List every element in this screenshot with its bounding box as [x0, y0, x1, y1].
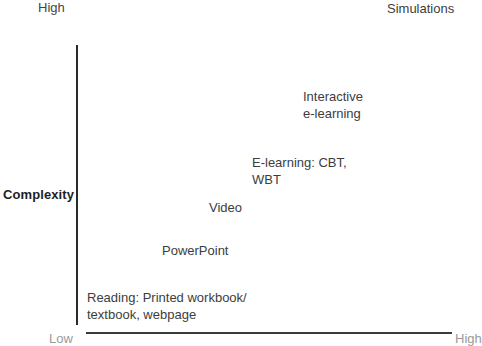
item-video: Video [209, 199, 242, 216]
x-axis-line [86, 332, 452, 334]
item-interactive-elearning: Interactive e-learning [303, 88, 363, 122]
item-reading-line1: Reading: Printed workbook/ [87, 289, 247, 306]
item-reading-line2: textbook, webpage [87, 306, 247, 323]
item-elearning-line1: E-learning: CBT, [252, 154, 347, 171]
x-axis-high-label: High [455, 331, 482, 346]
item-interactive-line2: e-learning [303, 105, 363, 122]
item-reading: Reading: Printed workbook/ textbook, web… [87, 289, 247, 323]
item-elearning-cbt-wbt: E-learning: CBT, WBT [252, 154, 347, 188]
y-axis-high-label: High [38, 0, 65, 15]
y-axis-line [76, 45, 78, 325]
y-axis-title: Complexity [3, 187, 74, 202]
item-interactive-line1: Interactive [303, 88, 363, 105]
item-simulations: Simulations [387, 0, 454, 17]
y-axis-low-label: Low [49, 331, 73, 346]
item-elearning-line2: WBT [252, 171, 347, 188]
item-powerpoint: PowerPoint [162, 242, 228, 259]
